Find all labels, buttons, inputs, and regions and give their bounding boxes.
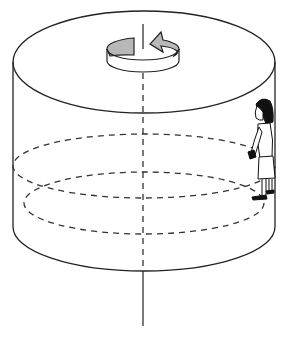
upper-dashed-ring	[13, 134, 275, 198]
person-figure	[248, 99, 275, 200]
person-hand	[248, 150, 256, 159]
floor-dashed-ring	[24, 172, 264, 234]
cylinder-bottom-arc	[13, 227, 275, 271]
person-foot-front	[252, 195, 267, 200]
person-foot-back	[266, 190, 274, 194]
diagram-canvas: Rotating cylinder with person pressed ag…	[0, 0, 292, 350]
person-skirt	[258, 156, 275, 179]
